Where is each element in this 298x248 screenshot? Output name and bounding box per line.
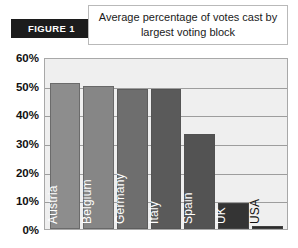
chart-title-box: Average percentage of votes cast by larg… (88, 5, 288, 45)
bar-slot: Belgium (83, 59, 114, 229)
figure-header: FIGURE 1 Average percentage of votes cas… (0, 0, 298, 52)
bar-category-label: Italy (148, 201, 160, 224)
bar-category-label: Belgium (81, 179, 93, 224)
bar-slot: Austria (50, 59, 81, 229)
bar-series: AustriaBelgiumGermanyItalySpainUKUSA (45, 59, 287, 229)
y-axis-tick-label: 10% (1, 195, 39, 207)
bar[interactable]: USA (252, 226, 283, 229)
bar[interactable]: Germany (117, 89, 148, 229)
bar-category-label: Germany (114, 173, 126, 224)
bar[interactable]: Spain (184, 134, 215, 229)
y-axis-tick-label: 20% (1, 167, 39, 179)
figure-number-badge: FIGURE 1 (11, 19, 92, 38)
y-axis-tick-label: 50% (1, 81, 39, 93)
bar[interactable]: UK (218, 203, 249, 229)
bar-category-label: Spain (182, 192, 194, 224)
bar-slot: Italy (151, 59, 182, 229)
y-axis: 0%10%20%30%40%50%60% (0, 52, 44, 234)
y-axis-tick-label: 30% (1, 138, 39, 150)
page-title: Average percentage of votes cast by larg… (89, 10, 287, 40)
bar-slot: USA (252, 59, 283, 229)
bar[interactable]: Austria (50, 83, 81, 229)
bar[interactable]: Italy (151, 89, 182, 229)
bar-slot: Spain (184, 59, 215, 229)
plot-area: AustriaBelgiumGermanyItalySpainUKUSA (44, 58, 288, 230)
bar-slot: UK (218, 59, 249, 229)
bar-category-label: USA (249, 199, 261, 224)
y-axis-tick-label: 0% (1, 224, 39, 236)
y-axis-tick-label: 60% (1, 52, 39, 64)
bar-chart: 0%10%20%30%40%50%60% AustriaBelgiumGerma… (0, 52, 298, 248)
bar-slot: Germany (117, 59, 148, 229)
bar-category-label: UK (215, 207, 227, 224)
y-axis-tick-label: 40% (1, 109, 39, 121)
bar[interactable]: Belgium (83, 86, 114, 229)
bar-category-label: Austria (47, 185, 59, 224)
